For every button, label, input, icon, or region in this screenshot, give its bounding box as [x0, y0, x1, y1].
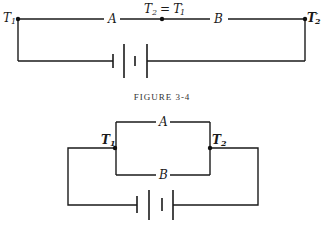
figure-3-4: T1 A B T2=T′1 T′2 FIGURE 3-4: [3, 2, 321, 102]
label-t1: T1: [101, 133, 116, 148]
node-t2-t1prime-dot: [160, 17, 164, 21]
label-t2: T2: [212, 133, 227, 148]
wire-outer-right: [173, 148, 258, 205]
battery-icon: [113, 44, 147, 78]
caption-figure-3-4: FIGURE 3-4: [134, 92, 191, 102]
battery-icon: [137, 190, 173, 220]
figure-3-5: T1 T2 A B FIGURE 3-5: [68, 115, 258, 234]
label-a: A: [107, 12, 117, 26]
node-t1-dot: [16, 17, 20, 21]
wire-outer-left: [68, 148, 137, 205]
circuit-diagrams: T1 A B T2=T′1 T′2 FIGURE 3-4 T1 T2: [0, 0, 321, 234]
label-t2prime: T′2: [307, 10, 321, 26]
label-b: B: [158, 168, 168, 182]
label-a: A: [158, 115, 168, 129]
label-t1: T1: [3, 11, 16, 26]
label-t2-equals-t1prime: T2=T′1: [144, 2, 185, 17]
label-b: B: [213, 12, 223, 26]
caption-figure-3-5: FIGURE 3-5: [134, 232, 191, 234]
